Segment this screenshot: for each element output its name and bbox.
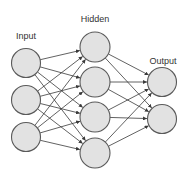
neural-network-diagram: Input Hidden Output xyxy=(0,0,186,171)
input-node-1 xyxy=(12,49,41,78)
connection-arrow-input-1-to-hidden-3 xyxy=(38,109,83,144)
connection-arrow-hidden-3-to-output-1 xyxy=(108,126,148,146)
hidden-node-3 xyxy=(80,102,110,132)
connection-arrow-hidden-0-to-output-0 xyxy=(108,54,148,75)
connection-arrow-input-0-to-hidden-0 xyxy=(40,51,80,60)
connection-arrow-input-2-to-hidden-0 xyxy=(35,59,86,125)
connection-arrow-hidden-1-to-output-1 xyxy=(108,89,149,112)
connection-arrow-input-1-to-hidden-0 xyxy=(38,56,83,91)
output-layer-label: Output xyxy=(149,56,177,66)
connection-arrow-input-0-to-hidden-2 xyxy=(37,72,82,108)
connection-arrow-input-2-to-hidden-2 xyxy=(40,121,80,133)
input-layer-label: Input xyxy=(16,31,37,41)
hidden-layer-label: Hidden xyxy=(81,14,110,24)
hidden-node-4 xyxy=(80,138,110,168)
output-node-2 xyxy=(148,105,177,134)
connection-arrow-input-0-to-hidden-1 xyxy=(40,67,80,78)
hidden-node-1 xyxy=(80,32,110,62)
connection-arrow-hidden-2-to-output-0 xyxy=(108,89,148,110)
connection-arrow-input-1-to-hidden-2 xyxy=(40,103,80,113)
input-node-3 xyxy=(12,123,41,152)
connection-arrow-input-0-to-hidden-3 xyxy=(35,75,86,141)
hidden-node-2 xyxy=(80,67,110,97)
connections xyxy=(35,51,152,150)
connection-arrow-input-1-to-hidden-1 xyxy=(40,86,80,96)
neurons xyxy=(12,32,177,168)
connection-arrow-input-2-to-hidden-3 xyxy=(40,140,80,149)
output-node-1 xyxy=(148,68,177,97)
input-node-2 xyxy=(12,86,41,115)
